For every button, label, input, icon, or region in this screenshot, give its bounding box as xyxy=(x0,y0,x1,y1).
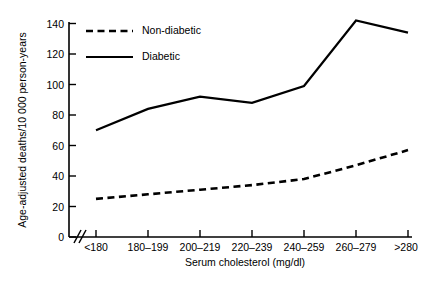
y-tick-label-140: 140 xyxy=(46,18,64,30)
y-axis-ticks xyxy=(69,24,76,238)
series-line-non-diabetic xyxy=(96,150,408,199)
chart-container: 140 120 100 80 60 40 20 0 Age-adjusted d… xyxy=(0,0,426,282)
x-tick-label-5: 260–279 xyxy=(336,241,377,253)
y-tick-label-0: 0 xyxy=(58,231,64,243)
y-tick-label-60: 60 xyxy=(52,140,64,152)
x-tick-label-2: 200–219 xyxy=(180,241,221,253)
y-tick-label-120: 120 xyxy=(46,48,64,60)
chart-legend: Non-diabetic Diabetic xyxy=(86,24,201,62)
x-tick-label-3: 220–239 xyxy=(232,241,273,253)
y-tick-label-20: 20 xyxy=(52,201,64,213)
series-line-diabetic xyxy=(96,20,408,130)
legend-label-non-diabetic: Non-diabetic xyxy=(142,24,201,36)
y-axis-title: Age-adjusted deaths/10 000 person-years xyxy=(16,32,28,228)
x-tick-label-6: >280 xyxy=(394,241,418,253)
x-tick-label-0: <180 xyxy=(84,241,108,253)
x-tick-label-4: 240–259 xyxy=(284,241,325,253)
line-chart: 140 120 100 80 60 40 20 0 Age-adjusted d… xyxy=(0,0,426,282)
x-axis-title: Serum cholesterol (mg/dl) xyxy=(185,256,305,268)
y-tick-label-100: 100 xyxy=(46,79,64,91)
x-axis-ticks xyxy=(96,230,408,237)
legend-label-diabetic: Diabetic xyxy=(142,50,180,62)
y-tick-label-40: 40 xyxy=(52,170,64,182)
x-tick-label-1: 180–199 xyxy=(128,241,169,253)
y-tick-label-80: 80 xyxy=(52,109,64,121)
